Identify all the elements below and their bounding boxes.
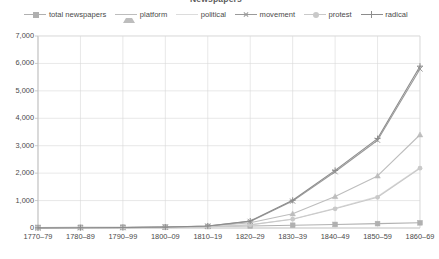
- x-axis-tick-label: 1780–89: [59, 233, 101, 241]
- series-radical: [35, 63, 423, 231]
- y-axis-tick-label: 7,000: [0, 32, 34, 40]
- series-platform: [35, 132, 423, 230]
- y-axis-tick-label: 6,000: [0, 59, 34, 67]
- x-axis-tick-label: 1810–19: [187, 233, 229, 241]
- series-line: [38, 69, 420, 228]
- data-point-marker: [375, 195, 380, 200]
- data-point-marker: [418, 166, 423, 171]
- y-axis-tick-label: 1,000: [0, 197, 34, 205]
- data-point-marker: [333, 206, 338, 211]
- x-axis-tick-label: 1770–79: [17, 233, 59, 241]
- data-point-marker: [290, 217, 295, 222]
- series-line: [38, 135, 420, 228]
- data-point-marker: [417, 132, 423, 137]
- y-axis-tick-label: 2,000: [0, 169, 34, 177]
- data-point-marker: [290, 223, 295, 228]
- series-protest: [36, 166, 423, 231]
- gridlines: [35, 36, 420, 228]
- y-axis-tick-label: 3,000: [0, 142, 34, 150]
- data-point-marker: [333, 222, 338, 227]
- y-axis-tick-label: 5,000: [0, 87, 34, 95]
- series-line: [38, 168, 420, 228]
- x-axis-tick-label: 1820–29: [229, 233, 271, 241]
- series-political: [38, 168, 420, 228]
- data-point-marker: [332, 194, 338, 199]
- y-axis-tick-label: 0: [0, 224, 34, 232]
- x-axis-tick-label: 1790–99: [102, 233, 144, 241]
- series-line: [38, 66, 420, 228]
- y-axis-tick-label: 4,000: [0, 114, 34, 122]
- x-axis-tick-label: 1860–69: [399, 233, 439, 241]
- x-axis-tick-label: 1840–49: [314, 233, 356, 241]
- x-axis-tick-label: 1830–39: [272, 233, 314, 241]
- x-axis-tick-label: 1850–59: [357, 233, 399, 241]
- data-point-marker: [375, 221, 380, 226]
- data-point-marker: [418, 220, 423, 225]
- x-axis-tick-label: 1800–09: [144, 233, 186, 241]
- series-line: [38, 168, 420, 228]
